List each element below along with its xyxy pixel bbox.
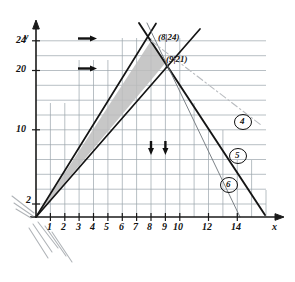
- feasible-region: [36, 41, 165, 217]
- line-label-4: 4: [240, 117, 245, 126]
- plot-area: [0, 0, 295, 282]
- boundary-lines: [36, 24, 200, 218]
- y-axis-arrowhead: [33, 20, 40, 29]
- y-tick-24: 24: [16, 35, 26, 45]
- arrow-down-icon: [148, 141, 154, 155]
- y-tick-10: 10: [16, 124, 26, 134]
- x-axis-label: x: [272, 222, 277, 232]
- y-tick-2: 2: [26, 195, 31, 205]
- x-tick-10: 10: [173, 222, 183, 232]
- x-tick-3: 3: [76, 222, 81, 232]
- x-tick-9: 9: [162, 222, 167, 232]
- x-tick-7: 7: [133, 222, 138, 232]
- x-axis-arrowhead: [275, 214, 284, 221]
- arrow-down-icon: [162, 141, 168, 155]
- line-label-6: 6: [226, 180, 231, 189]
- x-tick-4: 4: [90, 222, 95, 232]
- x-tick-5: 5: [104, 222, 109, 232]
- figure-canvas: y x 24 20 10 2 1 2 3 4 5 6 7 8 9 10 12 1…: [0, 0, 295, 282]
- x-tick-6: 6: [119, 222, 124, 232]
- x-tick-14: 14: [231, 222, 241, 232]
- vertex-label-9-21: (9|21): [166, 55, 187, 64]
- x-tick-1: 1: [47, 222, 52, 232]
- x-tick-12: 12: [202, 222, 212, 232]
- line-label-5: 5: [235, 151, 240, 160]
- constraint-line-5: [139, 23, 265, 215]
- boundary-line-upper: [36, 24, 156, 218]
- y-tick-20: 20: [16, 64, 26, 74]
- x-tick-8: 8: [147, 222, 152, 232]
- vertex-label-8-24: (8|24): [158, 33, 179, 42]
- x-tick-2: 2: [61, 222, 66, 232]
